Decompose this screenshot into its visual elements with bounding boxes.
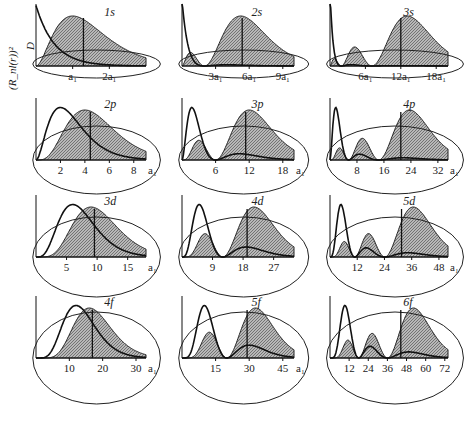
orbital-title: 3s [402, 5, 414, 19]
orbital-title: 5f [251, 295, 262, 309]
x-tick-label: 30 [131, 362, 143, 374]
orbital-title: 1s [104, 5, 115, 19]
x-tick-label: 12 [244, 164, 255, 176]
orbital-title: 4p [403, 97, 415, 111]
orbital-title: 3p [250, 97, 263, 111]
x-tick-label: 9 [210, 261, 216, 273]
x-tick-label: 6a₁ [242, 70, 256, 82]
panel-2p: 2468a₁2p [33, 97, 161, 194]
x-tick-label: 24 [363, 362, 375, 374]
x-tick-label: 27 [268, 261, 280, 273]
probability-density-area [36, 207, 146, 257]
x-tick-label: 8 [354, 164, 360, 176]
unit-label: a₁ [148, 362, 157, 374]
unit-label: a₁ [296, 164, 305, 176]
x-tick-label: 72 [439, 362, 450, 374]
x-tick-label: 8 [131, 164, 137, 176]
x-tick-label: a₁ [68, 70, 77, 82]
panel-4p: 8162432a₁4p [327, 97, 464, 194]
x-tick-label: 60 [420, 362, 432, 374]
probability-density-area [330, 16, 448, 66]
x-tick-label: 16 [378, 164, 390, 176]
orbital-title: 3d [103, 194, 117, 208]
x-tick-label: 48 [433, 261, 445, 273]
orbital-title: 6f [403, 295, 414, 309]
x-tick-label: 18 [238, 261, 250, 273]
x-tick-label: 15 [122, 261, 134, 273]
orbital-radial-distribution-figure: a₁2a₁1s3a₁6a₁9a₁2s6a₁12a₁18a₁3s2468a₁2p6… [0, 0, 469, 429]
panel-3p: 61218a₁3p [179, 97, 309, 194]
unit-label: a₁ [296, 362, 305, 374]
x-tick-label: 5 [64, 261, 70, 273]
x-tick-label: 10 [64, 362, 76, 374]
orbital-title: 4f [104, 295, 115, 309]
x-tick-label: 36 [406, 261, 418, 273]
x-tick-label: 15 [210, 362, 222, 374]
x-tick-label: 32 [432, 164, 443, 176]
panel-3d: 51015a₁3d [33, 194, 161, 297]
x-tick-label: 36 [382, 362, 394, 374]
panel-5d: 12243648a₁5d [327, 194, 464, 297]
orbital-title: 2s [251, 5, 262, 19]
unit-label: a₁ [148, 164, 157, 176]
probability-density-area [182, 16, 294, 66]
x-tick-label: 24 [405, 164, 417, 176]
unit-label: a₁ [450, 164, 459, 176]
unit-label: a₁ [148, 261, 157, 273]
x-tick-label: 24 [379, 261, 391, 273]
orbital-title: 2p [104, 97, 116, 111]
y-axis-label-group: (R_nl(r))² D [6, 42, 36, 90]
panel-2s: 3a₁6a₁9a₁2s [179, 4, 309, 82]
unit-label: a₁ [450, 261, 459, 273]
x-tick-label: 12a₁ [391, 70, 411, 82]
density-label: D [24, 42, 36, 51]
y-axis-label: (R_nl(r))² [6, 46, 19, 90]
panel-6f: 1224364860726f [327, 295, 464, 404]
orbital-title: 4d [251, 194, 264, 208]
x-tick-label: 12 [352, 261, 363, 273]
x-tick-label: 45 [277, 362, 289, 374]
panel-1s: a₁2a₁1s [33, 4, 161, 82]
x-tick-label: 48 [401, 362, 413, 374]
x-tick-label: 4 [82, 164, 88, 176]
x-tick-label: 6 [213, 164, 219, 176]
x-tick-label: 6a₁ [358, 70, 372, 82]
x-tick-label: 6 [107, 164, 113, 176]
panel-3s: 6a₁12a₁18a₁3s [327, 4, 464, 82]
x-tick-label: 18 [277, 164, 289, 176]
x-tick-label: 3a₁ [208, 70, 222, 82]
orbital-title: 5d [403, 194, 416, 208]
x-tick-label: 12 [344, 362, 355, 374]
panel-4f: 102030a₁4f [33, 295, 161, 404]
x-tick-label: 10 [92, 261, 104, 273]
x-tick-label: 20 [97, 362, 109, 374]
x-tick-label: 30 [244, 362, 256, 374]
x-tick-label: 2a₁ [102, 70, 116, 82]
panel-4d: 918274d [179, 194, 309, 297]
x-tick-label: 2 [58, 164, 64, 176]
x-tick-label: 18a₁ [426, 70, 446, 82]
panel-5f: 153045a₁5f [179, 295, 309, 404]
x-tick-label: 9a₁ [276, 70, 290, 82]
